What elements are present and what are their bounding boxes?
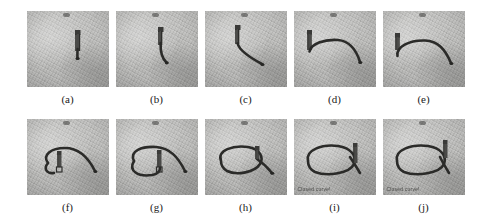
panel-image-f bbox=[27, 119, 109, 195]
panel-image-e bbox=[383, 11, 465, 87]
panel-row-bottom: (f) bbox=[0, 119, 491, 213]
panel-e: (e) bbox=[379, 11, 468, 105]
panel-image-b bbox=[116, 11, 198, 87]
panel-vignette-a bbox=[27, 11, 109, 87]
panel-f: (f) bbox=[23, 119, 112, 213]
panel-overlay-text-j: Closed curve! bbox=[387, 186, 420, 192]
panel-caption-c: (c) bbox=[239, 94, 251, 105]
panel-image-g bbox=[116, 119, 198, 195]
panel-image-i: Closed curve! bbox=[294, 119, 376, 195]
panel-b: (b) bbox=[112, 11, 201, 105]
panel-vignette-h bbox=[205, 119, 287, 195]
panel-j: Closed curve! (j) bbox=[379, 119, 468, 213]
panel-caption-e: (e) bbox=[417, 94, 429, 105]
panel-d: (d) bbox=[290, 11, 379, 105]
panel-image-h bbox=[205, 119, 287, 195]
panel-a: (a) bbox=[23, 11, 112, 105]
panel-caption-b: (b) bbox=[150, 94, 163, 105]
panel-row-top: (a) (b) bbox=[0, 11, 491, 105]
panel-caption-d: (d) bbox=[328, 94, 341, 105]
panel-g: (g) bbox=[112, 119, 201, 213]
panel-caption-j: (j) bbox=[418, 202, 428, 213]
panel-vignette-j bbox=[383, 119, 465, 195]
panel-i: Closed curve! (i) bbox=[290, 119, 379, 213]
panel-vignette-c bbox=[205, 11, 287, 87]
panel-vignette-i bbox=[294, 119, 376, 195]
panel-image-d bbox=[294, 11, 376, 87]
panel-vignette-d bbox=[294, 11, 376, 87]
panel-h: (h) bbox=[201, 119, 290, 213]
panel-image-c bbox=[205, 11, 287, 87]
panel-overlay-text-i: Closed curve! bbox=[298, 186, 331, 192]
figure-container: (a) (b) bbox=[0, 0, 491, 222]
panel-caption-g: (g) bbox=[150, 202, 163, 213]
panel-image-j: Closed curve! bbox=[383, 119, 465, 195]
panel-vignette-g bbox=[116, 119, 198, 195]
panel-caption-a: (a) bbox=[61, 94, 73, 105]
panel-c: (c) bbox=[201, 11, 290, 105]
panel-caption-f: (f) bbox=[62, 202, 73, 213]
panel-caption-h: (h) bbox=[239, 202, 252, 213]
panel-caption-i: (i) bbox=[329, 202, 339, 213]
panel-image-a bbox=[27, 11, 109, 87]
panel-vignette-f bbox=[27, 119, 109, 195]
panel-vignette-b bbox=[116, 11, 198, 87]
panel-vignette-e bbox=[383, 11, 465, 87]
